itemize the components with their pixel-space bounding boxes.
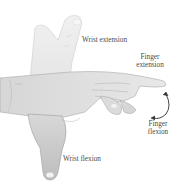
- wrist-extension-hand: [30, 16, 82, 81]
- finger-flexion-label: Finger flexion: [140, 120, 176, 136]
- finger-flexion-line1: Finger: [140, 120, 176, 128]
- wrist-extension-label: Wrist extension: [82, 36, 127, 44]
- finger-flexion-line2: flexion: [140, 128, 176, 136]
- finger-extension-line1: Finger: [130, 53, 170, 61]
- finger-extension-label: Finger extension: [130, 53, 170, 69]
- flexion-extension-arrow-icon: [151, 92, 169, 120]
- wrist-flexion-label: Wrist flexion: [63, 155, 101, 163]
- finger-extension-line2: extension: [130, 61, 170, 69]
- forearm-and-hand: [0, 72, 166, 119]
- wrist-flexion-hand: [28, 114, 80, 180]
